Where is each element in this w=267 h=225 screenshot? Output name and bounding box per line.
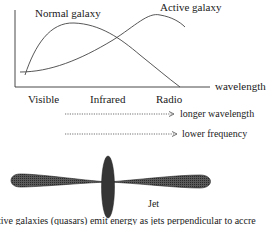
- galaxy-spectrum-diagram: Normal galaxy Active galaxy wavelength V…: [0, 0, 267, 225]
- jet-lobe-left: [11, 174, 108, 187]
- normal-galaxy-label: Normal galaxy: [35, 7, 101, 19]
- active-galaxy-label: Active galaxy: [160, 1, 222, 13]
- jet-label: Jet: [148, 198, 159, 209]
- arrow-label-longer-wavelength: longer wavelength: [180, 108, 254, 119]
- x-axis-label: wavelength: [215, 80, 266, 92]
- arrow-label-lower-frequency: lower frequency: [182, 128, 247, 139]
- active-galaxy-curve: [20, 15, 185, 72]
- tick-radio: Radio: [156, 93, 183, 105]
- tick-visible: Visible: [28, 93, 59, 105]
- jet-lobe-right: [108, 175, 211, 188]
- diagram-canvas: Normal galaxy Active galaxy wavelength V…: [0, 0, 267, 225]
- arrow-longer-wavelength: longer wavelength: [65, 108, 254, 119]
- arrow-lower-frequency: lower frequency: [65, 128, 247, 139]
- jet-diagram: [11, 156, 211, 218]
- accretion-disk: [102, 156, 115, 218]
- tick-infrared: Infrared: [90, 93, 126, 105]
- caption-text: tive galaxies (quasars) emit energy as j…: [0, 215, 256, 225]
- normal-galaxy-curve: [25, 23, 180, 87]
